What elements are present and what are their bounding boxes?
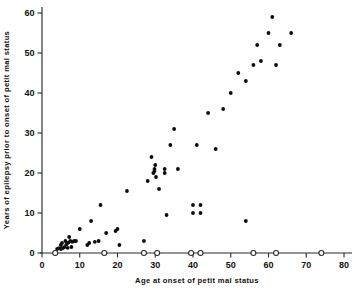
data-point-open — [53, 251, 58, 256]
data-point-filled — [163, 167, 167, 171]
data-point-filled — [154, 175, 158, 179]
data-point-filled — [221, 107, 225, 111]
data-point-filled — [66, 246, 70, 250]
data-point-filled — [244, 219, 248, 223]
data-point-filled — [70, 245, 74, 249]
data-point-filled — [93, 240, 97, 244]
x-tick-label: 60 — [263, 260, 273, 270]
data-point-filled — [195, 143, 199, 147]
data-point-filled — [87, 241, 91, 245]
data-point-filled — [259, 59, 263, 63]
data-point-open — [251, 251, 256, 256]
data-point-filled — [267, 31, 271, 35]
x-tick-label: 70 — [301, 260, 311, 270]
data-point-filled — [172, 127, 176, 131]
data-point-filled — [236, 71, 240, 75]
y-tick-label: 20 — [24, 168, 34, 178]
data-point-filled — [78, 227, 82, 231]
data-point-filled — [142, 239, 146, 243]
data-point-filled — [157, 187, 161, 191]
data-point-filled — [206, 111, 210, 115]
tick-marks-group — [38, 13, 345, 258]
data-point-filled — [165, 213, 169, 217]
data-point-open — [189, 251, 194, 256]
data-point-filled — [274, 63, 278, 67]
data-point-filled — [116, 227, 120, 231]
data-point-filled — [104, 231, 108, 235]
data-point-filled — [89, 219, 93, 223]
data-point-filled — [67, 235, 71, 239]
data-point-filled — [278, 43, 282, 47]
y-tick-label: 30 — [24, 128, 34, 138]
data-point-filled — [191, 203, 195, 207]
x-tick-label: 10 — [75, 260, 85, 270]
data-point-open — [198, 251, 203, 256]
y-tick-label: 0 — [29, 248, 34, 258]
data-point-open — [155, 251, 160, 256]
data-point-open — [319, 251, 324, 256]
data-point-filled — [153, 163, 157, 167]
data-point-filled — [176, 167, 180, 171]
y-tick-label: 50 — [24, 48, 34, 58]
data-point-filled — [191, 211, 195, 215]
y-tick-label: 40 — [24, 88, 34, 98]
data-point-filled — [244, 79, 248, 83]
scatter-plot-figure: 01020304050607080 0102030405060 Age at o… — [0, 0, 358, 288]
data-point-filled — [270, 15, 274, 19]
x-tick-label: 0 — [39, 260, 44, 270]
data-point-filled — [153, 169, 157, 173]
plot-canvas: 01020304050607080 0102030405060 Age at o… — [0, 0, 358, 288]
data-point-filled — [168, 143, 172, 147]
x-tick-labels: 01020304050607080 — [39, 260, 349, 270]
data-point-filled — [252, 63, 256, 67]
y-axis-title: Years of epilepsy prior to onset of peti… — [2, 31, 11, 229]
x-axis-title: Age at onset of petit mal status — [135, 276, 259, 285]
data-point-filled — [117, 243, 121, 247]
data-point-open — [274, 251, 279, 256]
y-tick-label: 10 — [24, 208, 34, 218]
y-tick-label: 60 — [24, 8, 34, 18]
data-point-filled — [97, 239, 101, 243]
x-tick-label: 80 — [339, 260, 349, 270]
x-tick-label: 30 — [150, 260, 160, 270]
x-tick-label: 20 — [112, 260, 122, 270]
data-point-open — [141, 251, 146, 256]
data-point-filled — [255, 43, 259, 47]
data-point-filled — [146, 179, 150, 183]
data-point-filled — [214, 147, 218, 151]
data-point-filled — [60, 241, 64, 245]
data-point-open — [102, 251, 107, 256]
data-point-filled — [150, 155, 154, 159]
data-point-filled — [74, 239, 78, 243]
data-point-filled — [125, 189, 129, 193]
axes-group — [40, 7, 352, 253]
data-point-filled — [99, 203, 103, 207]
data-point-filled — [199, 203, 203, 207]
x-tick-label: 50 — [226, 260, 236, 270]
data-point-filled — [229, 91, 233, 95]
y-tick-labels: 0102030405060 — [24, 8, 34, 258]
data-point-filled — [289, 31, 293, 35]
data-point-filled — [199, 211, 203, 215]
data-point-filled — [163, 171, 167, 175]
x-tick-label: 40 — [188, 260, 198, 270]
data-points-group — [53, 15, 324, 255]
